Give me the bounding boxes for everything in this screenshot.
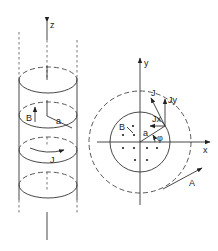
current-label-Jy: Jy [168,95,178,105]
top-disk-front [19,80,77,93]
vector-potential-A [163,168,202,189]
field-label-B: B [26,113,32,123]
field-pointer [127,127,133,133]
current-arrow-J [30,148,64,152]
cross-section-figure: y x B a φ J Jy Jx A [89,58,210,205]
current-label-Jx: Jx [152,114,162,124]
angle-arc-phi [153,135,155,142]
z-axis-label: z [50,20,55,30]
current-label-J: J [50,155,55,165]
bottom-disk-back [19,172,77,185]
j-disk-back [19,137,77,150]
vector-potential-label-A: A [189,178,195,188]
bottom-disk-front [19,185,77,198]
current-label-J: J [151,88,156,98]
field-label-B: B [119,122,125,132]
diagram-canvas: z a B J [0,0,218,251]
x-axis-label: x [203,145,208,155]
radius-label-a: a [56,116,61,126]
cylinder-figure: z a B J [19,20,77,240]
angle-label-phi: φ [157,133,163,143]
top-disk-back [19,67,77,80]
radius-label-a: a [143,128,148,138]
y-axis-label: y [144,58,149,68]
